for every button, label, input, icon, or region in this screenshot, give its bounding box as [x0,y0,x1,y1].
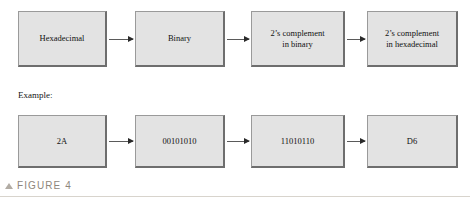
twos-complement-hexadecimal-line1: 2’s complement [382,28,442,39]
example-box-twos-complement-binary: 11010110 [251,115,345,168]
example-box-hexadecimal: 2A [18,115,107,168]
twos-complement-hexadecimal-line2: in hexadecimal [382,39,442,50]
arrow-binary-to-twos-complement-binary [227,39,249,40]
figure-caption-text: FIGURE 4 [17,180,72,191]
process-box-binary: Binary [135,11,225,67]
arrow-example-twos-complement-binary-to-hexadecimal [347,141,365,142]
figure-container: Hexadecimal Binary 2’s complement in bin… [0,0,470,203]
figure-caption: FIGURE 4 [5,180,72,191]
process-box-twos-complement-hexadecimal-label: 2’s complement in hexadecimal [379,28,445,49]
arrow-example-hexadecimal-to-binary [109,141,133,142]
example-box-twos-complement-binary-value: 11010110 [278,136,317,147]
arrow-twos-complement-binary-to-hexadecimal [347,39,365,40]
process-box-hexadecimal-label: Hexadecimal [37,33,88,44]
arrow-hexadecimal-to-binary [109,39,133,40]
example-box-binary-value: 00101010 [160,136,200,147]
example-box-binary: 00101010 [135,115,225,168]
example-box-twos-complement-hexadecimal: D6 [367,115,458,168]
process-box-twos-complement-binary-label: 2’s complement in binary [264,28,330,49]
process-box-twos-complement-hexadecimal: 2’s complement in hexadecimal [367,11,458,67]
triangle-up-icon [5,183,13,189]
example-label: Example: [18,90,53,100]
arrow-example-binary-to-twos-complement-binary [227,141,249,142]
example-box-hexadecimal-value: 2A [54,136,70,147]
example-box-twos-complement-hexadecimal-value: D6 [404,136,420,147]
process-box-binary-label: Binary [165,33,194,44]
twos-complement-binary-line1: 2’s complement [267,28,327,39]
process-box-hexadecimal: Hexadecimal [18,11,107,67]
twos-complement-binary-line2: in binary [267,39,327,50]
process-box-twos-complement-binary: 2’s complement in binary [251,11,345,67]
caption-divider [0,196,470,197]
